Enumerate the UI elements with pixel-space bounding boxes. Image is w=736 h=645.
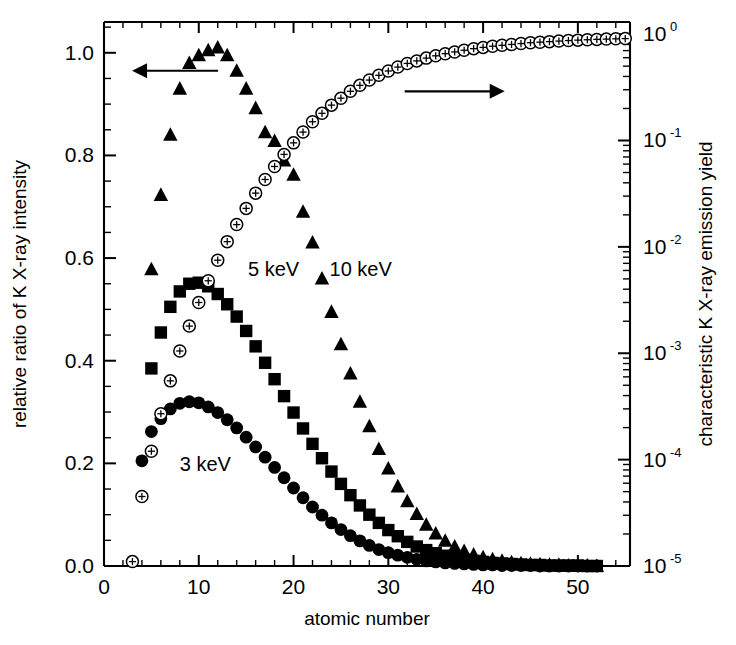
x-tick-label: 20 (282, 575, 305, 598)
svg-text:10: 10 (643, 22, 666, 45)
svg-text:-5: -5 (670, 551, 682, 566)
y-right-tick-label: 100 (643, 19, 677, 45)
y-right-axis-ticks (618, 34, 630, 566)
svg-text:10: 10 (643, 448, 666, 471)
y-axis-title-right: characteristic K X-ray emission yield (695, 141, 716, 446)
svg-text:-3: -3 (670, 338, 682, 353)
svg-text:-1: -1 (670, 125, 682, 140)
x-axis-title: atomic number (304, 608, 430, 629)
series-10-kev (144, 40, 604, 572)
svg-text:-2: -2 (670, 232, 682, 247)
x-tick-label: 40 (471, 575, 494, 598)
y-left-tick-label: 1.0 (65, 41, 94, 64)
y-left-tick-label: 0.8 (65, 143, 94, 166)
y-left-tick-label: 0.4 (65, 349, 95, 372)
y-right-tick-label: 10-4 (643, 445, 682, 471)
y-axis-title-left: relative ratio of K X-ray intensity (9, 159, 30, 428)
svg-text:10: 10 (643, 341, 666, 364)
series-k-x-ray-emission-yield (126, 33, 631, 568)
x-tick-label: 10 (187, 575, 210, 598)
svg-text:0: 0 (670, 19, 677, 34)
y-right-tick-label: 10-1 (643, 125, 682, 151)
svg-text:10: 10 (643, 235, 666, 258)
svg-text:10: 10 (643, 128, 666, 151)
y-right-tick-label: 10-3 (643, 338, 682, 364)
svg-text:-4: -4 (670, 445, 682, 460)
left-axis-arrow (132, 63, 218, 78)
y-left-tick-label: 0.0 (65, 554, 94, 577)
y-right-tick-label: 10-5 (643, 551, 682, 577)
right-axis-arrow (405, 84, 505, 99)
y-right-tick-label: 10-2 (643, 232, 682, 258)
y-left-tick-label: 0.2 (65, 451, 94, 474)
series-label-10-kev: 10 keV (330, 258, 393, 280)
y-left-tick-label: 0.6 (65, 246, 94, 269)
series-label-3-kev: 3 keV (180, 453, 232, 475)
y-right-axis-tick-labels: 10-510-410-310-210-1100 (643, 19, 682, 577)
x-axis-tick-labels: 01020304050 (98, 575, 589, 598)
data-series-layer (126, 33, 631, 573)
series-label-5-kev: 5 keV (248, 258, 300, 280)
x-tick-label: 0 (98, 575, 110, 598)
series-5-kev (145, 277, 603, 573)
figure-container: 01020304050 0.00.20.40.60.81.0 10-510-41… (0, 0, 736, 645)
y-left-axis-tick-labels: 0.00.20.40.60.81.0 (65, 41, 95, 577)
chart-svg: 01020304050 0.00.20.40.60.81.0 10-510-41… (0, 0, 736, 645)
x-tick-label: 30 (377, 575, 400, 598)
svg-text:10: 10 (643, 554, 666, 577)
x-tick-label: 50 (566, 575, 589, 598)
y-left-axis-ticks (104, 27, 116, 566)
